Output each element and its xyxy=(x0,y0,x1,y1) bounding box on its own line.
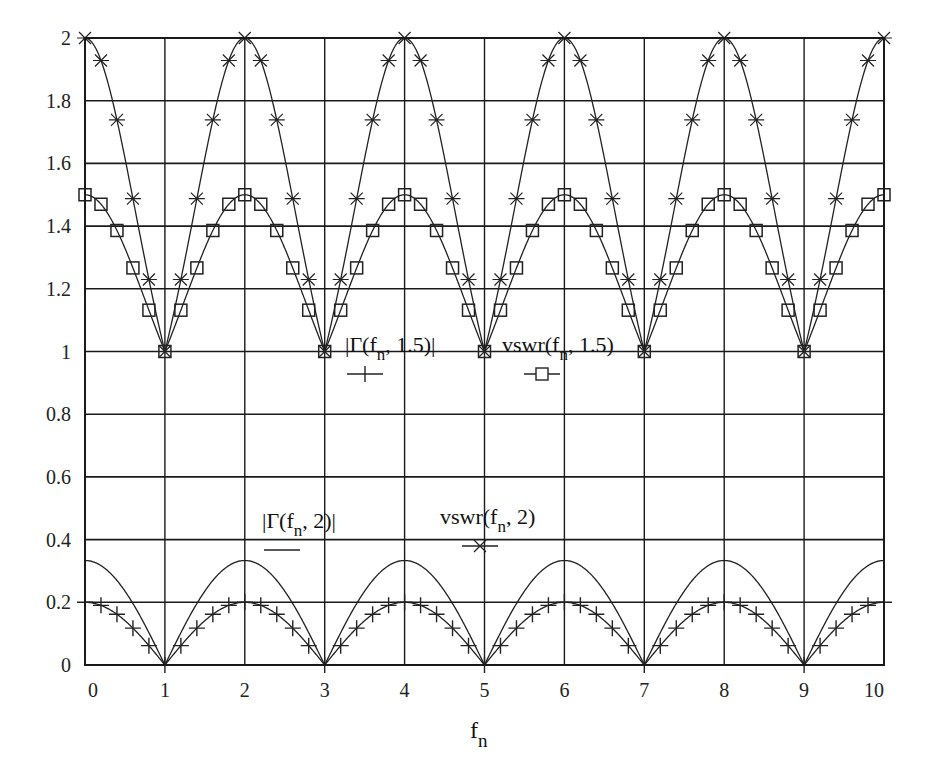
x-marker-icon xyxy=(141,273,157,285)
plus-marker-icon xyxy=(397,594,413,610)
x-tick-label: 5 xyxy=(480,679,490,701)
x-axis-tick-labels: 012345678910 xyxy=(88,679,884,701)
legend-entry: vswr(fn, 1.5) xyxy=(502,332,614,380)
x-marker-icon xyxy=(540,54,556,66)
x-marker-icon xyxy=(812,273,828,285)
plus-marker-icon xyxy=(732,597,748,613)
x-tick-label: 10 xyxy=(864,679,884,701)
x-marker-icon xyxy=(508,193,524,205)
x-marker-icon xyxy=(620,273,636,285)
x-tick-label: 4 xyxy=(400,679,410,701)
x-marker-icon xyxy=(205,114,221,126)
x-marker-icon xyxy=(860,54,876,66)
y-axis-tick-labels: 00.20.40.60.811.21.41.61.82 xyxy=(46,27,71,676)
plus-marker-icon xyxy=(221,597,237,613)
x-marker-icon xyxy=(333,273,349,285)
x-marker-icon xyxy=(764,193,780,205)
plus-marker-icon xyxy=(269,606,285,622)
x-marker-icon xyxy=(301,273,317,285)
x-marker-icon xyxy=(429,114,445,126)
plus-marker-icon xyxy=(365,606,381,622)
x-marker-icon xyxy=(189,193,205,205)
x-tick-label: 7 xyxy=(639,679,649,701)
plus-marker-icon xyxy=(588,606,604,622)
plus-marker-icon xyxy=(860,597,876,613)
x-marker-icon xyxy=(381,54,397,66)
plus-marker-icon xyxy=(700,597,716,613)
plus-marker-icon xyxy=(93,597,109,613)
x-tick-label: 2 xyxy=(240,679,250,701)
x-marker-icon xyxy=(748,114,764,126)
x-marker-icon xyxy=(269,114,285,126)
plus-marker-icon xyxy=(844,606,860,622)
x-axis-label-text: fn xyxy=(470,717,488,751)
legend-entry: vswr(fn, 2) xyxy=(440,504,535,552)
plus-marker-icon xyxy=(253,597,269,613)
y-tick-label: 1.2 xyxy=(46,278,71,300)
plus-marker-icon xyxy=(237,594,253,610)
x-marker-icon xyxy=(684,114,700,126)
plus-marker-icon xyxy=(540,597,556,613)
y-tick-label: 0 xyxy=(61,654,71,676)
y-tick-label: 0.6 xyxy=(46,466,71,488)
x-marker-icon xyxy=(652,273,668,285)
x-marker-icon xyxy=(492,273,508,285)
plus-marker-icon xyxy=(748,606,764,622)
x-marker-icon xyxy=(828,193,844,205)
x-marker-icon xyxy=(572,54,588,66)
plus-marker-icon xyxy=(572,597,588,613)
x-marker-icon xyxy=(844,114,860,126)
x-marker-icon xyxy=(125,193,141,205)
y-tick-label: 1.6 xyxy=(46,152,71,174)
vswr-reflection-chart: 00.20.40.60.811.21.41.61.82 012345678910… xyxy=(0,0,925,779)
y-tick-label: 1.4 xyxy=(46,215,71,237)
x-tick-label: 9 xyxy=(799,679,809,701)
x-marker-icon xyxy=(173,273,189,285)
legend: |Γ(fn, 1.5)|vswr(fn, 1.5)|Γ(fn, 2)|vswr(… xyxy=(262,332,614,552)
y-tick-label: 0.8 xyxy=(46,403,71,425)
plus-marker-icon xyxy=(716,594,732,610)
plus-marker-icon xyxy=(429,606,445,622)
plus-marker-icon xyxy=(413,597,429,613)
x-marker-icon xyxy=(365,114,381,126)
plus-marker-icon xyxy=(524,606,540,622)
plus-marker-icon xyxy=(109,606,125,622)
x-tick-label: 1 xyxy=(160,679,170,701)
x-marker-icon xyxy=(221,54,237,66)
x-marker-icon xyxy=(413,54,429,66)
legend-label: |Γ(fn, 1.5)| xyxy=(345,332,436,364)
plus-marker-icon xyxy=(205,606,221,622)
plus-marker-icon xyxy=(684,606,700,622)
x-marker-icon xyxy=(349,193,365,205)
y-tick-label: 2 xyxy=(61,27,71,49)
x-marker-icon xyxy=(524,114,540,126)
plus-marker-icon xyxy=(381,597,397,613)
x-tick-label: 6 xyxy=(559,679,569,701)
x-marker-icon xyxy=(588,114,604,126)
x-marker-icon xyxy=(700,54,716,66)
x-tick-label: 8 xyxy=(719,679,729,701)
x-marker-icon xyxy=(445,193,461,205)
x-marker-icon xyxy=(285,193,301,205)
x-marker-icon xyxy=(461,273,477,285)
y-tick-label: 1.8 xyxy=(46,90,71,112)
legend-square-icon xyxy=(536,368,548,380)
x-tick-label: 3 xyxy=(320,679,330,701)
plus-marker-icon xyxy=(556,594,572,610)
x-marker-icon xyxy=(732,54,748,66)
y-tick-label: 0.4 xyxy=(46,529,71,551)
legend-entry: |Γ(fn, 1.5)| xyxy=(345,332,436,382)
x-marker-icon xyxy=(93,54,109,66)
x-marker-icon xyxy=(604,193,620,205)
legend-label: vswr(fn, 1.5) xyxy=(502,332,614,364)
legend-label: vswr(fn, 2) xyxy=(440,504,535,536)
x-marker-icon xyxy=(668,193,684,205)
x-marker-icon xyxy=(109,114,125,126)
x-marker-icon xyxy=(780,273,796,285)
x-tick-label: 0 xyxy=(88,679,98,701)
x-axis-label: fn xyxy=(470,717,488,751)
y-tick-label: 0.2 xyxy=(46,591,71,613)
y-tick-label: 1 xyxy=(61,341,71,363)
x-marker-icon xyxy=(253,54,269,66)
